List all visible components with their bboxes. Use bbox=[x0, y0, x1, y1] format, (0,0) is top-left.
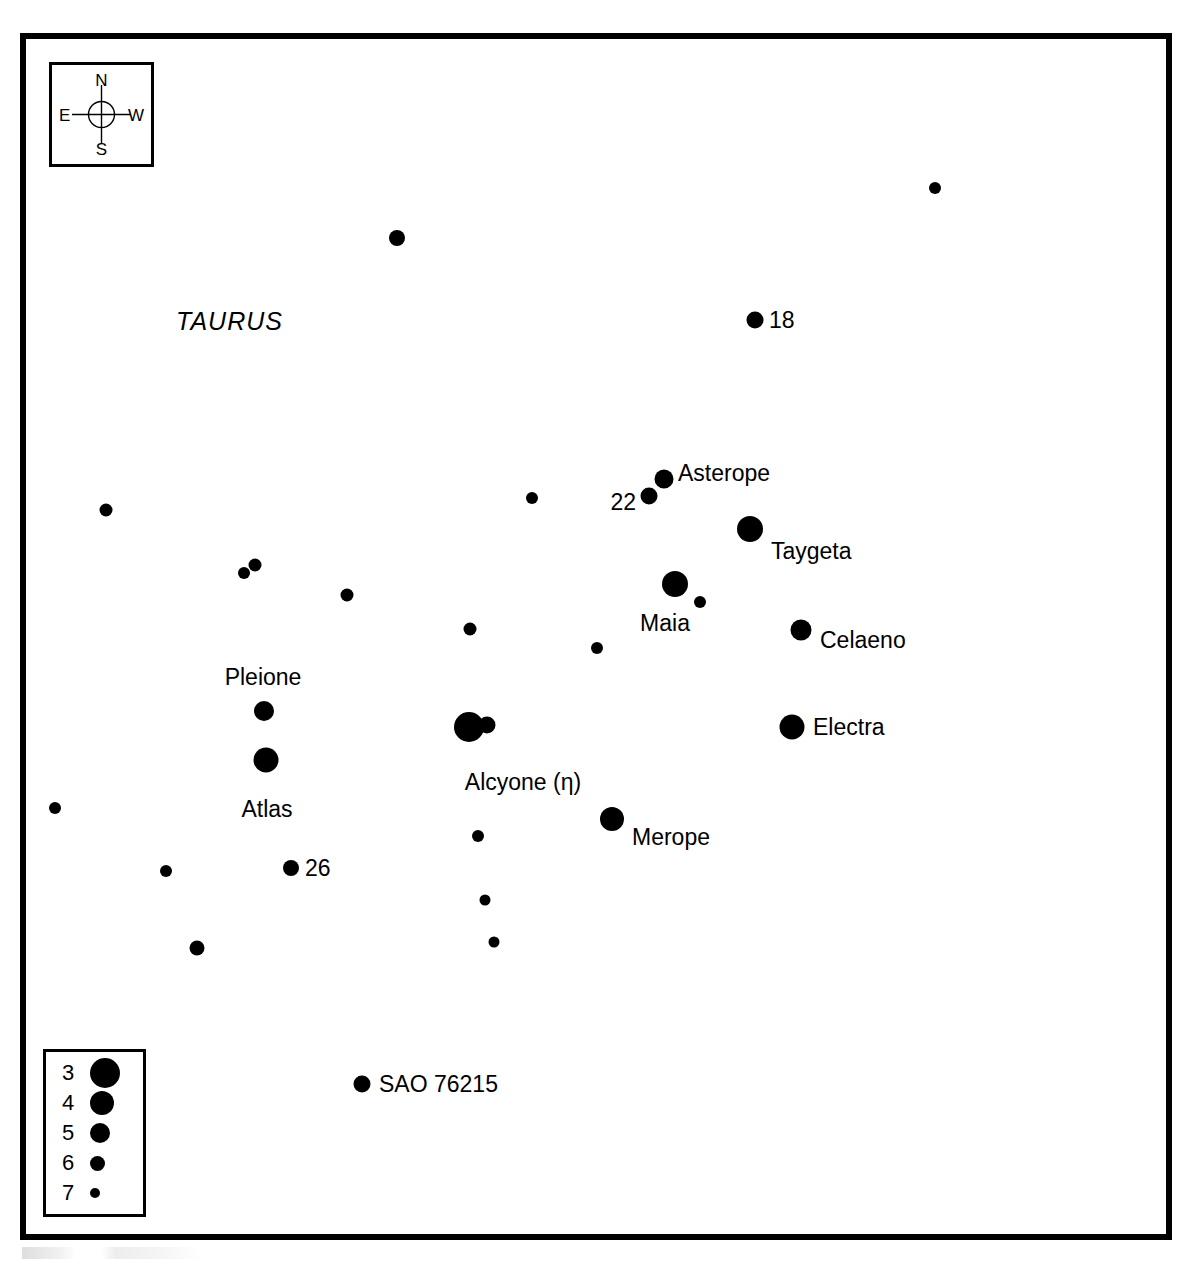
legend-magnitude-value: 5 bbox=[46, 1122, 90, 1144]
star-electra bbox=[780, 715, 805, 740]
legend-star-dot-mag-3 bbox=[90, 1058, 120, 1088]
star-label-atlas: Atlas bbox=[241, 798, 292, 821]
star-unlabeled-21 bbox=[464, 623, 477, 636]
star-unlabeled-24 bbox=[49, 802, 61, 814]
legend-magnitude-value: 4 bbox=[46, 1092, 90, 1114]
star-chart-frame: TAURUS Alcyone (η)AtlasElectraMaiaMerope… bbox=[20, 33, 1172, 1240]
star-merope bbox=[600, 807, 624, 831]
legend-dot-cell bbox=[90, 1123, 138, 1143]
star-unlabeled-17 bbox=[526, 492, 538, 504]
star-unlabeled-14 bbox=[389, 230, 405, 246]
star-label-sao-76215: SAO 76215 bbox=[379, 1073, 498, 1096]
compass-west-label: W bbox=[128, 106, 144, 123]
legend-row-mag-5: 5 bbox=[46, 1119, 143, 1148]
star-label-asterope: Asterope bbox=[678, 462, 770, 485]
constellation-label: TAURUS bbox=[176, 307, 283, 336]
star-unlabeled-20 bbox=[341, 589, 354, 602]
compass-south-label: S bbox=[96, 141, 107, 158]
star-unlabeled-19 bbox=[249, 559, 262, 572]
sky-plot-area: TAURUS Alcyone (η)AtlasElectraMaiaMerope… bbox=[26, 39, 1166, 1234]
star-asterope bbox=[655, 470, 674, 489]
star-unlabeled-1 bbox=[479, 717, 496, 734]
compass-north-label: N bbox=[95, 72, 107, 89]
star-unlabeled-18 bbox=[238, 567, 250, 579]
star-pleione bbox=[254, 701, 274, 721]
star-taygeta bbox=[737, 516, 763, 542]
star-label-electra: Electra bbox=[813, 716, 885, 739]
legend-row-mag-3: 3 bbox=[46, 1059, 143, 1088]
star-unlabeled-15 bbox=[929, 182, 941, 194]
star-26 bbox=[283, 860, 299, 876]
star-unlabeled-29 bbox=[489, 937, 500, 948]
star-unlabeled-26 bbox=[190, 941, 205, 956]
legend-dot-cell bbox=[90, 1091, 138, 1115]
legend-magnitude-value: 6 bbox=[46, 1152, 90, 1174]
star-label-maia: Maia bbox=[640, 612, 690, 635]
star-maia bbox=[662, 571, 688, 597]
legend-row-mag-6: 6 bbox=[46, 1149, 143, 1178]
star-unlabeled-22 bbox=[591, 642, 603, 654]
legend-row-mag-7: 7 bbox=[46, 1179, 143, 1208]
star-label-taygeta: Taygeta bbox=[771, 540, 852, 563]
star-label-26: 26 bbox=[305, 857, 331, 880]
legend-star-dot-mag-5 bbox=[90, 1123, 110, 1143]
star-atlas bbox=[254, 748, 279, 773]
star-unlabeled-25 bbox=[160, 865, 172, 877]
star-unlabeled-27 bbox=[472, 830, 484, 842]
star-label-pleione: Pleione bbox=[225, 666, 302, 689]
compass-rose: N S E W bbox=[49, 62, 154, 167]
legend-star-dot-mag-7 bbox=[90, 1188, 100, 1198]
star-18 bbox=[747, 312, 764, 329]
legend-star-dot-mag-6 bbox=[90, 1156, 105, 1171]
caption-scan-artifact bbox=[22, 1247, 202, 1259]
star-label-celaeno: Celaeno bbox=[820, 629, 906, 652]
legend-magnitude-value: 3 bbox=[46, 1062, 90, 1084]
magnitude-legend: 34567 bbox=[43, 1049, 146, 1217]
star-celaeno bbox=[791, 620, 812, 641]
star-label-22: 22 bbox=[610, 491, 636, 514]
star-unlabeled-28 bbox=[480, 895, 491, 906]
compass-east-label: E bbox=[59, 106, 70, 123]
legend-dot-cell bbox=[90, 1188, 138, 1198]
legend-row-mag-4: 4 bbox=[46, 1089, 143, 1118]
legend-star-dot-mag-4 bbox=[90, 1091, 114, 1115]
star-22 bbox=[641, 488, 658, 505]
star-sao-76215 bbox=[354, 1076, 371, 1093]
star-label-merope: Merope bbox=[632, 826, 710, 849]
star-unlabeled-23 bbox=[694, 596, 706, 608]
star-label-18: 18 bbox=[769, 309, 795, 332]
star-label-alcyone: Alcyone (η) bbox=[465, 771, 581, 794]
legend-dot-cell bbox=[90, 1058, 138, 1088]
star-unlabeled-16 bbox=[100, 504, 113, 517]
legend-dot-cell bbox=[90, 1156, 138, 1171]
legend-magnitude-value: 7 bbox=[46, 1182, 90, 1204]
